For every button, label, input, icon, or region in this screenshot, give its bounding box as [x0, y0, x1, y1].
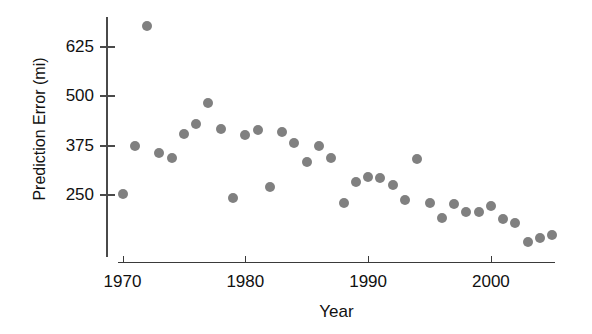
data-point: [339, 198, 349, 208]
x-tick-1990: [368, 256, 369, 263]
y-axis-title: Prediction Error (mi): [31, 19, 49, 239]
data-point: [253, 125, 263, 135]
data-point: [240, 130, 250, 140]
data-point: [351, 177, 361, 187]
x-tick-label-1990: 1990: [333, 272, 403, 292]
data-point: [118, 189, 128, 199]
data-point: [142, 21, 152, 31]
data-point: [167, 153, 177, 163]
data-point: [486, 201, 496, 211]
data-point: [191, 119, 201, 129]
data-point: [289, 138, 299, 148]
x-axis-title: Year: [118, 302, 555, 322]
data-point: [179, 129, 189, 139]
data-point: [498, 214, 508, 224]
data-point: [425, 198, 435, 208]
data-point: [265, 182, 275, 192]
y-tick-625: [100, 46, 115, 48]
data-point: [412, 154, 422, 164]
x-tick-1980: [245, 256, 246, 263]
data-point: [130, 141, 140, 151]
data-point: [363, 172, 373, 182]
x-tick-2000: [491, 256, 492, 263]
y-tick-375: [100, 145, 115, 147]
data-point: [314, 141, 324, 151]
y-axis-line: [106, 17, 108, 257]
y-tick-250: [100, 194, 115, 196]
plot-area: 250375500625 1970198019902000 Prediction…: [0, 0, 592, 334]
data-point: [302, 157, 312, 167]
x-tick-label-1970: 1970: [88, 272, 158, 292]
x-tick-label-1980: 1980: [210, 272, 280, 292]
data-point: [216, 124, 226, 134]
data-point: [400, 195, 410, 205]
data-point: [510, 218, 520, 228]
scatter-chart-figure: 250375500625 1970198019902000 Prediction…: [0, 0, 592, 334]
data-point: [474, 207, 484, 217]
data-point: [154, 148, 164, 158]
y-tick-500: [100, 95, 115, 97]
data-point: [449, 199, 459, 209]
x-tick-1970: [123, 256, 124, 263]
data-point: [203, 98, 213, 108]
data-point: [547, 230, 557, 240]
data-point: [326, 153, 336, 163]
data-point: [535, 233, 545, 243]
data-point: [277, 127, 287, 137]
data-point: [523, 237, 533, 247]
data-point: [461, 207, 471, 217]
x-tick-label-2000: 2000: [456, 272, 526, 292]
data-point: [437, 213, 447, 223]
x-axis-line: [118, 262, 555, 263]
data-point: [375, 173, 385, 183]
data-point: [228, 193, 238, 203]
data-point: [388, 180, 398, 190]
